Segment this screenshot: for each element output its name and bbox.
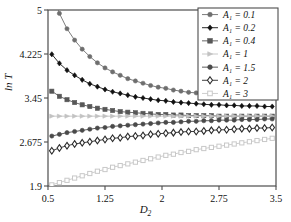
data-point bbox=[65, 142, 70, 149]
data-point bbox=[111, 114, 116, 118]
data-point bbox=[133, 79, 137, 83]
legend-label: A₁ = 0.4 bbox=[222, 36, 255, 46]
data-point bbox=[72, 141, 77, 148]
data-point bbox=[209, 145, 213, 149]
data-point bbox=[255, 138, 259, 142]
data-point bbox=[133, 160, 137, 164]
data-point bbox=[126, 162, 130, 166]
data-point bbox=[50, 134, 54, 138]
data-point bbox=[118, 163, 122, 167]
y-tick-label: 1.9 bbox=[30, 181, 43, 192]
legend: A₁ = 0.1A₁ = 0.2A₁ = 0.4A₁ = 1A₁ = 1.5A₁… bbox=[198, 8, 278, 100]
data-point bbox=[232, 126, 237, 133]
data-point bbox=[88, 171, 92, 175]
data-point bbox=[164, 98, 168, 103]
data-point bbox=[95, 169, 99, 173]
data-point bbox=[255, 125, 260, 132]
legend-label: A₁ = 0.2 bbox=[222, 23, 255, 33]
data-point bbox=[156, 155, 160, 159]
data-point bbox=[179, 120, 183, 124]
data-point bbox=[141, 81, 145, 85]
data-point bbox=[73, 100, 77, 104]
data-point bbox=[255, 117, 259, 121]
data-point bbox=[194, 101, 198, 106]
data-point bbox=[50, 148, 55, 155]
data-point bbox=[202, 128, 207, 135]
legend-marker bbox=[208, 39, 213, 44]
data-point bbox=[217, 102, 221, 107]
data-point bbox=[103, 167, 107, 171]
data-point bbox=[186, 128, 191, 135]
data-point bbox=[80, 103, 84, 107]
data-point bbox=[126, 114, 131, 118]
data-point bbox=[103, 136, 108, 143]
data-point bbox=[194, 128, 199, 135]
data-point bbox=[270, 117, 274, 121]
data-point bbox=[88, 104, 92, 108]
data-point bbox=[65, 131, 69, 135]
data-point bbox=[126, 93, 130, 98]
legend-label: A₁ = 0.1 bbox=[222, 10, 255, 20]
data-point bbox=[103, 125, 107, 129]
data-point bbox=[225, 143, 229, 147]
y-tick-label: 3.45 bbox=[25, 93, 43, 104]
data-point bbox=[270, 124, 275, 131]
data-point bbox=[103, 87, 107, 92]
data-point bbox=[95, 84, 99, 89]
data-point bbox=[164, 130, 169, 137]
data-point bbox=[270, 136, 274, 140]
data-point bbox=[209, 119, 213, 123]
data-point bbox=[225, 118, 229, 122]
data-point bbox=[95, 61, 99, 65]
data-point bbox=[179, 150, 183, 154]
data-point bbox=[126, 110, 130, 114]
data-point bbox=[171, 129, 176, 136]
data-point bbox=[247, 125, 252, 132]
data-point bbox=[88, 81, 92, 86]
data-point bbox=[187, 119, 191, 123]
data-point bbox=[232, 142, 236, 146]
data-point bbox=[247, 140, 251, 144]
data-point bbox=[57, 114, 62, 118]
x-axis-title-subscript: 2 bbox=[148, 209, 152, 218]
data-point bbox=[179, 129, 184, 136]
data-point bbox=[65, 98, 69, 102]
data-point bbox=[126, 123, 130, 127]
data-point bbox=[73, 176, 77, 180]
data-point bbox=[224, 126, 229, 133]
data-point bbox=[103, 66, 107, 70]
data-point bbox=[202, 102, 206, 107]
data-point bbox=[126, 77, 130, 81]
data-point bbox=[50, 114, 55, 118]
data-point bbox=[194, 119, 198, 123]
y-tick-label: 5 bbox=[37, 5, 42, 16]
data-point bbox=[80, 77, 84, 82]
data-point bbox=[88, 54, 92, 58]
data-point bbox=[164, 120, 168, 124]
data-point bbox=[73, 114, 78, 118]
data-point bbox=[156, 85, 160, 89]
data-point bbox=[187, 90, 191, 94]
data-point bbox=[73, 73, 77, 78]
data-point bbox=[118, 91, 122, 96]
data-point bbox=[80, 174, 84, 178]
data-point bbox=[95, 114, 100, 118]
data-point bbox=[141, 122, 145, 126]
data-point bbox=[247, 103, 251, 108]
data-point bbox=[133, 133, 138, 140]
data-point bbox=[240, 103, 244, 108]
data-point bbox=[194, 148, 198, 152]
data-point bbox=[103, 114, 108, 118]
y-tick-label: 4.225 bbox=[20, 49, 43, 60]
data-point bbox=[118, 114, 123, 118]
data-point bbox=[111, 70, 115, 74]
data-point bbox=[103, 107, 107, 111]
data-point bbox=[202, 119, 206, 123]
data-point bbox=[95, 106, 99, 110]
data-point bbox=[232, 118, 236, 122]
data-point bbox=[171, 88, 175, 92]
data-point bbox=[209, 127, 214, 134]
data-point bbox=[141, 132, 146, 139]
data-point bbox=[240, 141, 244, 145]
legend-marker bbox=[208, 12, 213, 17]
